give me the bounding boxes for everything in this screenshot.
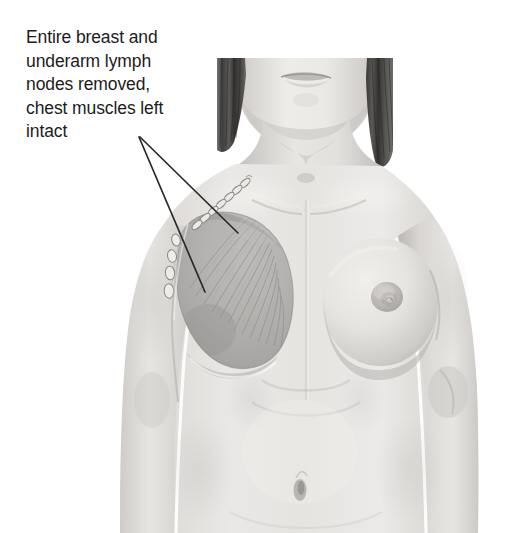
leader-line-lower (139, 137, 205, 292)
annotation-text: Entire breast and underarm lymph nodes r… (26, 26, 226, 144)
illustration-canvas: Entire breast and underarm lymph nodes r… (0, 0, 521, 533)
leader-line-upper (140, 137, 238, 233)
